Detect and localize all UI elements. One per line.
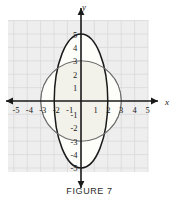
x-tick-label: 3 [119, 105, 123, 115]
x-tick-label: -2 [53, 105, 60, 115]
x-tick-label: 1 [93, 105, 97, 115]
y-axis-label: y [81, 2, 86, 12]
coordinate-plot: x y -5 -4 -3 -2 -1 1 2 3 4 5 5 4 3 2 1 -… [0, 0, 179, 207]
y-tick-label: -3 [70, 137, 77, 147]
y-tick-label: 5 [73, 30, 77, 40]
y-tick-label: -2 [70, 123, 77, 133]
y-tick-label: -4 [70, 150, 78, 160]
y-tick-label: 3 [73, 56, 77, 66]
x-tick-label: -3 [39, 105, 46, 115]
x-axis-arrow-right [151, 98, 158, 105]
y-tick-label: 1 [73, 83, 77, 93]
figure-caption: FIGURE 7 [0, 186, 179, 196]
x-axis-label: x [164, 97, 169, 107]
x-tick-label: -4 [26, 105, 34, 115]
y-tick-label: -5 [70, 163, 77, 173]
y-tick-label: 2 [73, 70, 77, 80]
x-tick-label: 4 [132, 105, 137, 115]
figure-container: x y -5 -4 -3 -2 -1 1 2 3 4 5 5 4 3 2 1 -… [0, 0, 179, 207]
x-tick-label: -5 [12, 105, 19, 115]
y-tick-label: -1 [70, 110, 77, 120]
x-tick-label: 5 [145, 105, 149, 115]
x-tick-label: 2 [106, 105, 110, 115]
